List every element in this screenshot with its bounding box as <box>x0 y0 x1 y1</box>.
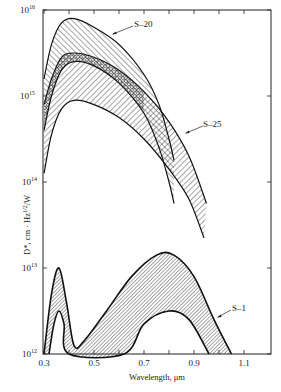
x-tick-labels: 0.3 0.5 0.7 0.9 1.1 <box>38 358 249 368</box>
x-tick-1.1: 1.1 <box>238 358 249 368</box>
y-tick-labels: 1016 1015 1014 1013 1012 <box>20 4 37 359</box>
x-tick-0.5: 0.5 <box>88 358 100 368</box>
x-axis-title: Wavelength, μm <box>129 372 185 382</box>
detectivity-chart: 1016 1015 1014 1013 1012 0.3 0.5 0.7 0.9… <box>0 0 281 392</box>
svg-text:S–20: S–20 <box>134 19 153 29</box>
series-bands <box>44 18 232 357</box>
y-tick-1e12: 1012 <box>22 348 37 359</box>
label-s1: S–1 <box>217 303 246 318</box>
y-tick-1e15: 1015 <box>20 90 35 101</box>
y-axis-title: D*, cm · Hz1/2/W <box>22 195 32 255</box>
x-tick-0.7: 0.7 <box>138 358 150 368</box>
svg-text:S–1: S–1 <box>232 303 246 313</box>
label-s20: S–20 <box>112 19 153 35</box>
label-s25: S–25 <box>185 119 222 134</box>
x-tick-0.9: 0.9 <box>188 358 200 368</box>
svg-text:S–25: S–25 <box>203 119 222 129</box>
y-tick-1e14: 1014 <box>22 176 37 187</box>
y-tick-1e13: 1013 <box>22 262 37 273</box>
x-tick-0.3: 0.3 <box>38 358 50 368</box>
y-tick-1e16: 1016 <box>20 4 35 15</box>
